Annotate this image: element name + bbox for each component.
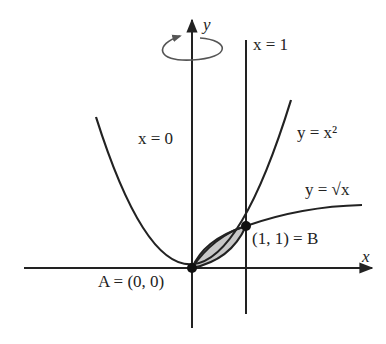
point-a — [187, 263, 197, 273]
label-x-equals-0: x = 0 — [138, 129, 173, 148]
label-point-b: (1, 1) = B — [252, 229, 318, 248]
label-x-equals-1: x = 1 — [253, 35, 288, 54]
x-axis-label: x — [361, 247, 370, 266]
label-point-a: A = (0, 0) — [98, 272, 164, 291]
label-parabola: y = x² — [297, 123, 337, 142]
diagram-canvas: y x x = 1 x = 0 y = x² y = √x (1, 1) = B… — [0, 0, 386, 344]
point-b — [241, 221, 251, 231]
label-sqrt-curve: y = √x — [305, 180, 350, 199]
y-axis-label: y — [201, 15, 211, 34]
